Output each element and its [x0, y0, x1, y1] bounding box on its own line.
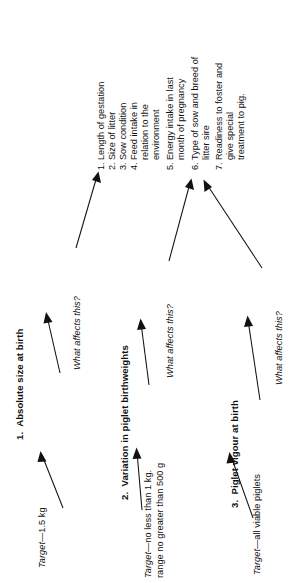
target-label-1: Target — [37, 542, 47, 568]
diagram-canvas: 1. Absolute size at birth Target—1.5 kg … — [0, 0, 296, 583]
arrow-node1-question-to-factors — [76, 172, 101, 249]
node-target-2-line1: Target—no less than 1 kg. — [143, 470, 154, 578]
factor-text-4-line2: relation to the — [140, 104, 151, 160]
factor-text-6-line1: Type of sow and breed of — [190, 57, 201, 160]
factor-text-7-line3: treatment to pig. — [236, 93, 247, 160]
factor-number-4: 4. — [129, 162, 140, 170]
factor-number-2: 2. — [107, 162, 118, 170]
factor-text-4-line1: Feed intake in — [129, 102, 140, 160]
factor-text-2: Size of litter — [107, 112, 118, 160]
arrow-node1-to-target — [38, 451, 64, 508]
factor-text-4-line3: environment — [151, 109, 162, 160]
node-question-2: What affects this? — [165, 304, 176, 378]
node-heading-3: 3. Piglet vigour at birth — [229, 400, 240, 508]
factor-text-5-line2: month of pregnancy — [176, 79, 187, 160]
target-value-1: —1.5 kg — [37, 507, 47, 542]
factor-number-3: 3. — [118, 162, 129, 170]
arrow-node2-question-to-factors — [169, 179, 194, 262]
arrow-node3-to-question — [244, 316, 260, 401]
factor-number-7: 7. — [214, 162, 225, 170]
factor-number-5: 5. — [165, 162, 176, 170]
node-target-3: Target—all viable piglets — [252, 474, 263, 575]
factor-text-6-line2: litter sire — [201, 125, 212, 160]
factor-text-1: Length of gestation — [96, 82, 107, 160]
node-heading-2: 2. Variation in piglet birthweights — [119, 345, 130, 500]
node-target-1: Target—1.5 kg — [37, 507, 48, 568]
arrow-node1-to-question — [44, 312, 61, 373]
node-question-3: What affects this? — [274, 311, 285, 385]
target-label-2: Target — [143, 552, 153, 578]
arrow-node2-to-question — [137, 319, 149, 386]
node-question-1: What affects this? — [72, 296, 83, 370]
node-heading-1: 1. Absolute size at birth — [14, 329, 25, 440]
node-target-2-line2: range no greater than 500 g — [155, 463, 166, 578]
target-value-2: —no less than 1 kg. — [143, 470, 153, 552]
factor-text-3: Sow condition — [118, 103, 129, 160]
arrow-node2-to-target — [133, 448, 143, 511]
factor-text-5-line1: Energy intake in last — [165, 77, 176, 160]
target-label-3: Target — [252, 549, 262, 575]
factor-text-7-line1: Readiness to foster and — [214, 63, 225, 160]
target-value-3: —all viable piglets — [252, 474, 262, 549]
factor-number-1: 1. — [96, 162, 107, 170]
arrow-node3-question-to-factors — [204, 180, 263, 269]
factor-number-6: 6. — [190, 162, 201, 170]
factor-text-7-line2: give special — [225, 112, 236, 160]
